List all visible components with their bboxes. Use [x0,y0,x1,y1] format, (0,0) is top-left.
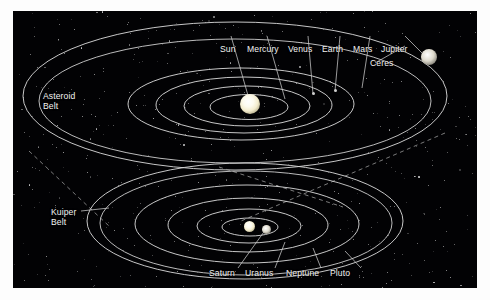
label-asteroid-belt-line1: Asteroid [43,91,75,101]
leader-neptune [313,248,321,268]
lower-sun-sphere [244,221,255,232]
label-mercury: Mercury [247,45,279,55]
orbit-kuiper-belt [87,163,403,279]
label-mars: Mars [353,45,373,55]
label-asteroid-belt-line2: Belt [43,101,58,111]
solar-system-figure: Sun Mercury Venus Earth Mars Jupiter Cer… [13,11,477,288]
label-sun: Sun [220,45,236,55]
leader-uranus [275,242,285,268]
label-uranus: Uranus [245,269,273,279]
projection-lines [29,133,445,226]
label-pluto: Pluto [330,269,350,279]
label-earth: Earth [322,45,343,55]
leader-saturn [238,229,266,268]
label-kuiper-belt-line1: Kuiper [51,207,76,217]
lower-orbits [87,163,403,279]
label-ceres: Ceres [370,59,393,69]
label-saturn: Saturn [209,269,235,279]
sun-sphere [240,94,260,114]
label-jupiter: Jupiter [381,45,408,55]
label-neptune: Neptune [286,269,319,279]
jupiter-sphere [421,49,437,65]
label-kuiper-belt-line2: Belt [51,217,66,227]
projection-right [241,133,445,221]
label-venus: Venus [288,45,312,55]
mars-dot [334,89,337,92]
saturn-sphere [262,225,271,234]
